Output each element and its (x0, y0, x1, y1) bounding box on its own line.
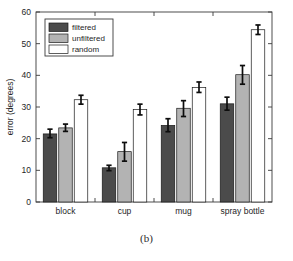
legend-label-filtered: filtered (72, 23, 96, 32)
y-tick-label: 60 (22, 7, 32, 17)
bar-unfiltered-mug (177, 108, 191, 202)
bar-unfiltered-block (59, 128, 73, 202)
y-axis-title: error (degrees) (5, 78, 15, 135)
y-tick-label: 30 (22, 102, 32, 112)
x-category-label-cup: cup (118, 206, 132, 216)
figure-caption: (b) (0, 232, 293, 244)
y-tick-label: 20 (22, 134, 32, 144)
bar-random-cup (133, 110, 147, 202)
legend-swatch-filtered (49, 23, 68, 32)
y-tick-label: 40 (22, 70, 32, 80)
bar-random-mug (192, 87, 206, 202)
y-tick-label: 50 (22, 39, 32, 49)
x-category-label-mug: mug (175, 206, 192, 216)
bar-filtered-spray-bottle (220, 104, 234, 202)
legend-label-unfiltered: unfiltered (72, 34, 105, 43)
legend-swatch-unfiltered (49, 34, 68, 43)
legend-label-random: random (72, 45, 99, 54)
x-category-label-block: block (56, 206, 77, 216)
legend-swatch-random (49, 45, 68, 54)
bar-random-block (74, 100, 88, 202)
bar-filtered-cup (102, 168, 116, 202)
bar-random-spray-bottle (251, 30, 265, 202)
bar-filtered-block (43, 134, 57, 202)
bar-chart: 0102030405060error (degrees)blockcupmugs… (0, 0, 293, 261)
bar-filtered-mug (161, 125, 175, 202)
bar-unfiltered-spray-bottle (236, 75, 250, 202)
y-tick-label: 0 (26, 197, 31, 207)
x-category-label-spray-bottle: spray bottle (221, 206, 265, 216)
y-tick-label: 10 (22, 165, 32, 175)
figure-panel: 0102030405060error (degrees)blockcupmugs… (0, 0, 293, 261)
